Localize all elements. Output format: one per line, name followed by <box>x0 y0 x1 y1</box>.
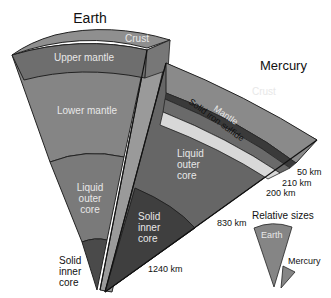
earth-lower-mantle-label: Lower mantle <box>57 105 117 116</box>
earth-inner-core-label: Solid inner core <box>59 255 82 288</box>
svg-text:Solid: Solid <box>59 255 81 266</box>
mercury-crust-label: Crust <box>252 86 276 97</box>
svg-text:Liquid: Liquid <box>177 148 204 159</box>
svg-text:Liquid: Liquid <box>77 182 104 193</box>
earth-outer-core-label: Liquid outer core <box>77 182 104 215</box>
svg-text:Solid: Solid <box>138 211 160 222</box>
depth-830km: 830 km <box>217 218 247 228</box>
depth-50km: 50 km <box>297 167 322 177</box>
planet-interior-diagram: Earth Crust Upper mantle Lower mantle Li… <box>0 0 331 298</box>
depth-200km: 200 km <box>266 188 296 198</box>
svg-text:core: core <box>80 204 100 215</box>
svg-text:outer: outer <box>177 159 200 170</box>
relative-sizes-title: Relative sizes <box>252 210 314 221</box>
svg-text:inner: inner <box>59 266 82 277</box>
relative-mercury-wedge <box>281 266 295 288</box>
svg-text:outer: outer <box>79 193 102 204</box>
svg-text:core: core <box>177 170 197 181</box>
svg-text:inner: inner <box>138 222 161 233</box>
mercury-title: Mercury <box>260 58 307 73</box>
depth-210km: 210 km <box>282 178 312 188</box>
relative-mercury-label: Mercury <box>288 256 321 266</box>
svg-text:core: core <box>59 277 79 288</box>
earth-upper-mantle-label: Upper mantle <box>54 52 114 63</box>
relative-earth-label: Earth <box>261 230 283 240</box>
svg-text:core: core <box>138 233 158 244</box>
depth-1240km: 1240 km <box>148 264 183 274</box>
earth-title: Earth <box>73 10 106 26</box>
earth-crust-label: Crust <box>125 33 149 44</box>
